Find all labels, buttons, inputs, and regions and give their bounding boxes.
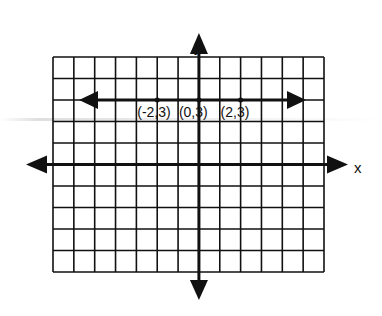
line-left-arrow-icon bbox=[79, 91, 98, 109]
point-label: (0,3) bbox=[179, 104, 208, 120]
x-axis-right-arrow-icon bbox=[327, 156, 348, 174]
point-marker bbox=[196, 98, 201, 103]
x-axis-label: x bbox=[354, 159, 362, 176]
x-axis-left-arrow-icon bbox=[26, 156, 47, 174]
point-label: (-2,3) bbox=[137, 104, 170, 120]
point-marker bbox=[155, 98, 160, 103]
point-marker bbox=[238, 98, 243, 103]
point-label: (2,3) bbox=[221, 104, 250, 120]
y-axis-down-arrow-icon bbox=[190, 280, 208, 300]
y-axis-label: y bbox=[194, 38, 202, 55]
coordinate-plane: (-2,3)(0,3)(2,3) x y bbox=[0, 0, 382, 316]
